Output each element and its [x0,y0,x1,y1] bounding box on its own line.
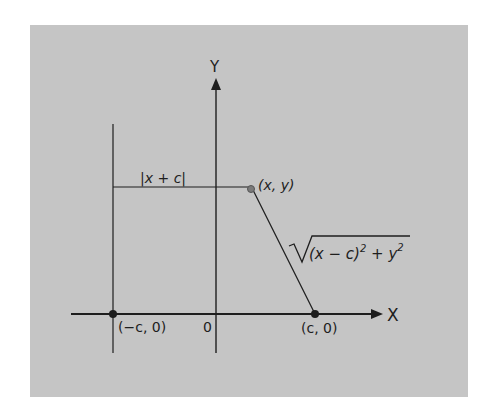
formula-exp2: 2 [397,242,403,253]
x-axis-label: X [387,305,399,325]
horizontal-distance-label: |x + c| [140,170,186,187]
x-axis-arrow-icon [371,309,383,319]
right-focus-label: (c, 0) [301,320,337,336]
y-axis-arrow-icon [211,78,221,90]
svg-text:(x − c)2 + y2: (x − c)2 + y2 [309,242,404,263]
formula-mid: + y [366,245,398,263]
left-focus-label: (−c, 0) [118,319,166,335]
y-axis-label: Y [209,58,220,76]
origin-label: 0 [203,319,212,335]
point-xy-marker [248,186,255,193]
left-focus-marker [109,310,117,318]
point-xy-label: (x, y) [258,177,294,193]
right-focus-marker [311,310,319,318]
formula-base: (x − c) [309,245,360,263]
focal-distance-formula: (x − c)2 + y2 [289,236,410,263]
parabola-distance-diagram: X Y |x + c| (x, y) (−c, 0) 0 (c, 0) (x −… [0,0,490,420]
